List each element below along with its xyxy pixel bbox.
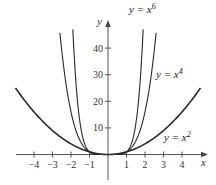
y-tick-label: 30 — [93, 69, 103, 80]
chart: −4−3−2−11234 10203040 x y y = x6 y = x4 … — [0, 0, 216, 185]
x-tick-label: 2 — [143, 159, 148, 170]
x-tick-label: −1 — [84, 159, 95, 170]
x-axis-label: x — [200, 156, 206, 168]
y-tick-label: 20 — [93, 96, 103, 107]
label-x2: y = x2 — [163, 130, 191, 143]
label-x6: y = x6 — [128, 2, 156, 15]
y-axis-label: y — [96, 15, 102, 27]
x-tick-label: 3 — [161, 159, 166, 170]
label-x4: y = x4 — [155, 67, 183, 80]
curve-labels: y = x6 y = x4 y = x2 — [128, 2, 191, 143]
y-axis-arrow-icon — [105, 20, 110, 27]
y-tick-label: 10 — [93, 122, 103, 133]
x-tick-label: −3 — [47, 159, 58, 170]
axes: −4−3−2−11234 10203040 x y — [16, 15, 208, 180]
x-tick-label: 4 — [180, 159, 185, 170]
x-tick-label: −2 — [66, 159, 77, 170]
y-tick-label: 40 — [93, 43, 103, 54]
x-tick-label: −4 — [29, 159, 40, 170]
x-tick-label: 1 — [124, 159, 129, 170]
